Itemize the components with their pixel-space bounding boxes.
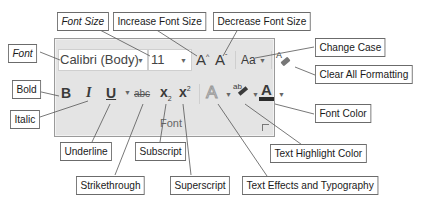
callout-change-case: Change Case bbox=[315, 38, 386, 57]
callout-clear-all-formatting: Clear All Formatting bbox=[315, 65, 413, 84]
callout-font-color: Font Color bbox=[315, 104, 371, 123]
callout-italic: Italic bbox=[10, 110, 40, 129]
callout-text-effects: Text Effects and Typography bbox=[242, 176, 378, 195]
callout-underline: Underline bbox=[60, 142, 112, 161]
callout-text-highlight-color: Text Highlight Color bbox=[270, 144, 367, 163]
callout-subscript: Subscript bbox=[135, 142, 186, 161]
callout-increase-font-size: Increase Font Size bbox=[113, 12, 206, 31]
callout-font: Font bbox=[8, 44, 37, 63]
callout-bold: Bold bbox=[12, 80, 41, 99]
callout-decrease-font-size: Decrease Font Size bbox=[213, 12, 311, 31]
callout-strikethrough: Strikethrough bbox=[76, 176, 145, 195]
callout-font-size: Font Size bbox=[57, 12, 109, 31]
callout-superscript: Superscript bbox=[170, 176, 230, 195]
